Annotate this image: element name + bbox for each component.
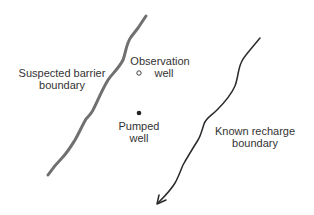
pumped-well-marker — [137, 111, 142, 116]
barrier-boundary-label: Suspected barrier boundary — [14, 67, 110, 91]
pumped-well-label: Pumped well — [114, 120, 164, 144]
recharge-label-line1: Known recharge — [212, 125, 298, 137]
barrier-boundary-line — [48, 16, 146, 175]
aquifer-boundary-diagram — [0, 0, 314, 215]
recharge-boundary-label: Known recharge boundary — [212, 125, 298, 149]
barrier-label-line1: Suspected barrier — [14, 67, 110, 79]
observation-label-line2: well — [128, 67, 192, 79]
barrier-label-line2: boundary — [14, 79, 110, 91]
observation-well-label: Observation well — [128, 55, 192, 79]
observation-label-line1: Observation — [128, 55, 192, 67]
recharge-label-line2: boundary — [212, 137, 298, 149]
pumped-label-line1: Pumped — [114, 120, 164, 132]
pumped-label-line2: well — [114, 132, 164, 144]
